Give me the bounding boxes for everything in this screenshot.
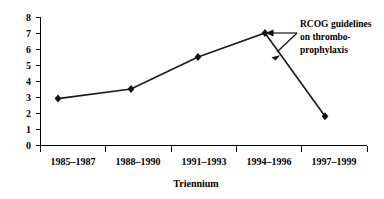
y-tick-label-2: 2 bbox=[26, 108, 31, 119]
x-tick-label-1985-1987: 1985–1987 bbox=[51, 156, 96, 167]
y-tick-label-0: 0 bbox=[26, 140, 31, 151]
chart-figure: 8 7 6 5 4 3 2 1 0 1985–1987 1988–1990 19… bbox=[0, 0, 384, 199]
x-tick-label-1994-1996: 1994–1996 bbox=[247, 156, 292, 167]
x-tick-label-1991-1993: 1991–1993 bbox=[182, 156, 227, 167]
y-tick-label-8: 8 bbox=[26, 12, 31, 23]
y-tick-label-4: 4 bbox=[26, 76, 31, 87]
line-chart: 8 7 6 5 4 3 2 1 0 1985–1987 1988–1990 19… bbox=[0, 0, 384, 199]
y-tick-label-1: 1 bbox=[26, 124, 31, 135]
x-axis-title: Triennium bbox=[173, 178, 219, 189]
y-tick-label-5: 5 bbox=[26, 60, 31, 71]
annotation-line-2: on thrombo- bbox=[300, 32, 351, 42]
y-tick-label-6: 6 bbox=[26, 44, 31, 55]
x-tick-label-1997-1999: 1997–1999 bbox=[312, 156, 357, 167]
y-tick-label-3: 3 bbox=[26, 92, 31, 103]
annotation-line-1: RCOG guidelines bbox=[300, 19, 372, 29]
y-tick-label-7: 7 bbox=[26, 28, 31, 39]
x-tick-label-1988-1990: 1988–1990 bbox=[116, 156, 161, 167]
annotation-line-3: prophylaxis bbox=[300, 45, 348, 55]
